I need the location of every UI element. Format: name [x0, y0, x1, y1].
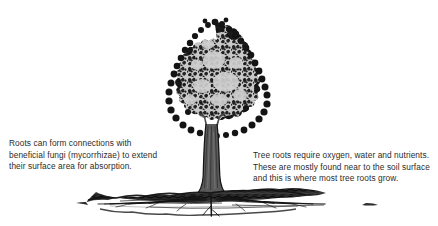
- tree-canopy: [160, 16, 284, 146]
- diagram-canvas: Roots can form connections with benefici…: [0, 0, 438, 226]
- canopy-fringe: [165, 18, 270, 139]
- soil-layer: [76, 188, 378, 215]
- root-requirements-note-line-1: Tree roots require oxygen, water and nut…: [253, 150, 430, 162]
- mycorrhizae-note-line-3: their surface area for absorption.: [9, 161, 157, 173]
- root-requirements-note: Tree roots require oxygen, water and nut…: [253, 150, 430, 185]
- mycorrhizae-note-line-2: beneficial fungi (mycorrhizae) to extend: [9, 150, 157, 162]
- root-requirements-note-line-3: and this is where most tree roots grow.: [253, 173, 430, 185]
- mycorrhizae-note: Roots can form connections with benefici…: [9, 138, 157, 173]
- root-system: [98, 196, 325, 216]
- mycorrhizae-note-line-1: Roots can form connections with: [9, 138, 157, 150]
- tree-illustration: [0, 0, 438, 226]
- tree-trunk: [195, 111, 228, 196]
- root-requirements-note-line-2: These are mostly found near to the soil …: [253, 162, 430, 174]
